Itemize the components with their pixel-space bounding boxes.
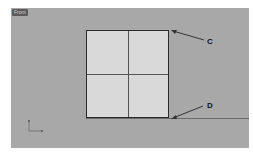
axes-icon	[27, 119, 45, 133]
callout-arrows	[11, 8, 249, 148]
callout-c: C	[207, 37, 213, 46]
callout-d: D	[207, 101, 213, 110]
viewport[interactable]: Front C D	[11, 8, 249, 148]
